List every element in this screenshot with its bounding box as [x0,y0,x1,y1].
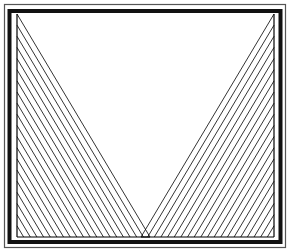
string-line [17,159,64,237]
string-line [17,192,44,237]
string-line [181,81,274,237]
string-line [17,226,24,237]
string-line [17,148,70,237]
string-line [17,181,50,237]
string-line [194,103,274,237]
string-line [154,36,274,237]
string-line [188,92,274,237]
string-line [201,114,274,237]
string-line [267,226,274,237]
string-line [168,59,274,237]
string-line [17,36,137,237]
string-line [17,70,117,237]
string-line [174,70,274,237]
string-line [17,103,97,237]
string-line [17,25,143,237]
right-parabolic-envelope [141,14,274,237]
left-parabolic-envelope [17,14,150,237]
string-line [17,137,77,237]
string-line [17,215,30,237]
string-line [17,81,110,237]
string-line [17,114,90,237]
string-line [221,148,274,237]
string-line [227,159,274,237]
string-art-diagram [0,0,290,252]
string-line [234,170,274,237]
string-line [247,192,274,237]
string-line [261,215,274,237]
string-line [17,170,57,237]
string-line [17,59,123,237]
string-line [214,137,274,237]
string-line [241,181,274,237]
string-line [17,92,103,237]
string-line [148,25,274,237]
